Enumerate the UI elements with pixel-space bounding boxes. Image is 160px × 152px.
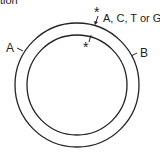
outer-strand-leader [17,48,23,51]
mutation-base-label: A, C, T or G [103,12,160,24]
inner-strand-circle [27,35,127,135]
inner-strand-leader [131,53,137,56]
mutation-arrowhead-icon [94,21,98,25]
inner-mutation-marker: * [83,39,89,55]
dna-circle-diagram: tion A B * A, C, T or G * [0,0,160,152]
inner-strand-label: B [140,46,148,60]
outer-strand-label: A [6,41,14,55]
outer-strand-circle [15,23,139,147]
header-fragment: tion [0,0,18,6]
